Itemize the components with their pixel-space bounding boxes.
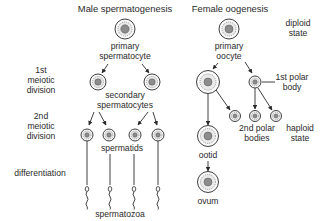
- secondary-spermatocyte-cell: [144, 74, 160, 90]
- arrow-icon: [213, 63, 218, 69]
- first-polar-body-label-1: 1st polar: [276, 72, 309, 82]
- arrow-icon: [89, 112, 94, 125]
- secondary-spermatocyte-cell: [90, 74, 106, 90]
- svg-text:2nd: 2nd: [34, 111, 49, 121]
- secondary-spermatocytes-label-2: spermatocytes: [97, 100, 153, 110]
- gametogenesis-diagram: Male spermatogenesis Female oogenesis 1s…: [0, 0, 320, 221]
- svg-text:division: division: [27, 85, 56, 95]
- svg-text:state: state: [291, 133, 310, 143]
- secondary-spermatocytes-label-1: secondary: [105, 90, 145, 100]
- arrow-icon: [258, 88, 272, 110]
- ovum-label: ovum: [197, 196, 218, 206]
- svg-text:meiotic: meiotic: [27, 75, 55, 85]
- arrow-icon: [142, 64, 149, 73]
- primary-spermatocyte-label-2: spermatocyte: [99, 51, 151, 61]
- ovum-cell: [198, 172, 219, 193]
- arrow-icon: [216, 90, 230, 110]
- arrow-icon: [245, 62, 252, 73]
- svg-text:meiotic: meiotic: [27, 121, 55, 131]
- second-polar-body-cells: [230, 111, 282, 122]
- state-label-haploid: haploid state: [286, 123, 314, 143]
- first-polar-body-cell: [249, 76, 261, 88]
- stage-label-meiosis-2: 2nd meiotic division: [27, 111, 56, 141]
- state-label-diploid: diploid state: [286, 18, 311, 38]
- primary-oocyte-cell: [219, 19, 239, 39]
- male-title: Male spermatogenesis: [78, 3, 173, 14]
- arrow-icon: [102, 64, 108, 73]
- arrow-icon: [99, 112, 106, 125]
- primary-spermatocyte-cell: [115, 19, 135, 39]
- arrow-icon: [153, 112, 157, 125]
- spermatozoa-cells: [85, 187, 160, 210]
- svg-text:haploid: haploid: [286, 123, 314, 133]
- svg-text:state: state: [289, 28, 308, 38]
- ootid-cell: [198, 126, 219, 147]
- svg-text:1st: 1st: [35, 65, 47, 75]
- first-polar-body-label-2: body: [283, 82, 302, 92]
- arrow-icon: [138, 112, 148, 125]
- spermatozoa-label: spermatozoa: [95, 209, 145, 219]
- stage-label-meiosis-1: 1st meiotic division: [27, 65, 56, 95]
- female-title: Female oogenesis: [192, 3, 269, 14]
- svg-text:diploid: diploid: [286, 18, 311, 28]
- primary-oocyte-label-2: oocyte: [216, 51, 242, 61]
- primary-oocyte-label-1: primary: [215, 41, 244, 51]
- spermatids-label: spermatids: [101, 143, 143, 153]
- spermatid-cells: [81, 129, 164, 141]
- stage-label-differentiation: differentiation: [14, 168, 66, 178]
- primary-spermatocyte-label-1: primary: [111, 41, 140, 51]
- second-polar-bodies-label-1: 2nd polar: [239, 123, 275, 133]
- svg-text:division: division: [27, 131, 56, 141]
- ootid-label: ootid: [199, 150, 218, 160]
- second-polar-bodies-label-2: bodies: [244, 133, 269, 143]
